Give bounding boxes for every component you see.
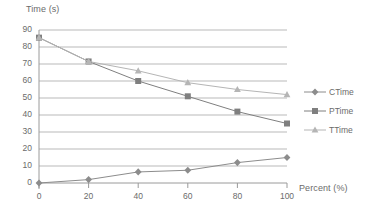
y-tick-label: 90: [10, 24, 32, 34]
x-tick-label: 40: [123, 191, 153, 201]
y-tick-label: 60: [10, 75, 32, 85]
x-tick-label: 100: [272, 191, 302, 201]
x-tick-label: 80: [222, 191, 252, 201]
legend-item-ctime[interactable]: CTime: [304, 82, 354, 101]
legend-item-ttime[interactable]: TTime: [304, 120, 354, 139]
data-point: [234, 109, 240, 115]
y-tick-label: 0: [10, 177, 32, 187]
data-point: [284, 121, 290, 127]
y-tick-label: 10: [10, 160, 32, 170]
series-ctime: [36, 154, 291, 187]
y-tick-label: 50: [10, 92, 32, 102]
data-point: [234, 159, 241, 166]
data-point: [284, 154, 291, 161]
y-tick-label: 20: [10, 143, 32, 153]
legend-marker-triangle-icon: [304, 125, 326, 135]
legend-label: TTime: [329, 125, 353, 135]
chart-container: Time (s) Percent (%) 0102030405060708090…: [0, 0, 376, 215]
legend-label: CTime: [329, 87, 354, 97]
data-point: [184, 167, 191, 174]
series-layer: [36, 34, 291, 187]
y-tick-label: 80: [10, 41, 32, 51]
legend-item-ptime[interactable]: PTime: [304, 101, 354, 120]
x-tick-label: 20: [74, 191, 104, 201]
x-tick-label: 0: [24, 191, 54, 201]
data-point: [36, 179, 43, 186]
gridlines: [39, 30, 287, 183]
data-point: [135, 168, 142, 175]
data-point: [85, 176, 92, 183]
x-tick-marks: [39, 183, 287, 188]
y-tick-label: 70: [10, 58, 32, 68]
y-tick-label: 40: [10, 109, 32, 119]
legend-marker-diamond-icon: [304, 87, 326, 97]
series-ttime: [36, 34, 291, 97]
legend: CTimePTimeTTime: [304, 82, 354, 139]
legend-label: PTime: [329, 106, 353, 116]
x-tick-label: 60: [173, 191, 203, 201]
y-tick-label: 30: [10, 126, 32, 136]
legend-marker-square-icon: [304, 106, 326, 116]
data-point: [185, 93, 191, 99]
data-point: [135, 78, 141, 84]
